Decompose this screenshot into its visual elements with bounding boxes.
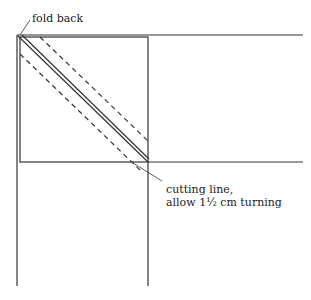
diagonal-fold-line-1: [18, 36, 148, 162]
sewing-diagram: fold back cutting line, allow 1½ cm turn…: [0, 0, 311, 300]
diagonal-fold-line-2: [22, 35, 149, 159]
turning-allowance-label: allow 1½ cm turning: [166, 196, 282, 209]
fold-back-leader: [20, 20, 30, 35]
fold-back-label: fold back: [32, 12, 83, 25]
diagram-lines: [0, 0, 311, 300]
dashed-cutting-line-lower: [20, 54, 140, 170]
cutting-line-label: cutting line,: [166, 183, 233, 196]
